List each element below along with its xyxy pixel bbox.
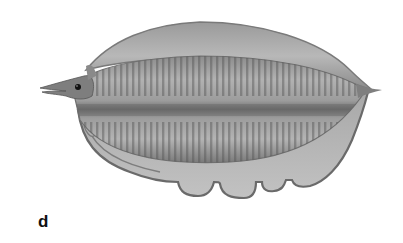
head [40, 65, 96, 99]
organism-illustration [0, 0, 403, 243]
eye-icon [75, 84, 81, 90]
posterior-spine [356, 84, 382, 98]
snout [40, 76, 94, 99]
panel-label: d [38, 212, 48, 232]
